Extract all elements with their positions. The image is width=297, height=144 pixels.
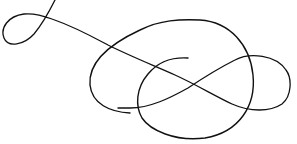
upper-left-loop-stroke bbox=[3, 0, 290, 110]
flourish-drawing bbox=[0, 0, 297, 144]
large-oval-stroke bbox=[90, 20, 253, 139]
flourish-svg bbox=[0, 0, 297, 144]
